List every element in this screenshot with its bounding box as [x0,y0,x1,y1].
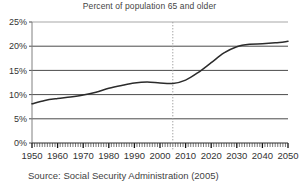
x-tick-label-2020: 2020 [201,150,222,161]
y-tick-label-20: 20% [9,41,27,51]
x-tick-label-1980: 1980 [98,150,119,161]
x-minor-tick-marks [32,143,288,148]
y-tick-label-10: 10% [9,90,27,100]
x-tick-label-2000: 2000 [149,150,170,161]
source-caption: Source: Social Security Administration (… [28,170,219,181]
x-tick-label-1970: 1970 [73,150,94,161]
gridlines-group [32,22,288,119]
chart-plot-area: 0%5%10%15%20%25% 19501960197019801990200… [0,0,299,186]
x-tick-label-2030: 2030 [226,150,247,161]
x-tick-label-2010: 2010 [175,150,196,161]
x-tick-label-1950: 1950 [21,150,42,161]
y-tick-label-25: 25% [9,17,27,27]
y-tick-label-0: 0% [14,138,27,148]
x-tick-label-1960: 1960 [47,150,68,161]
y-tick-label-15: 15% [9,66,27,76]
y-tick-label-5: 5% [14,114,27,124]
x-tick-label-2040: 2040 [252,150,273,161]
y-axis-tick-labels: 0%5%10%15%20%25% [9,17,27,148]
x-axis-tick-labels: 1950196019701980199020002010202020302040… [21,150,298,161]
x-tick-label-1990: 1990 [124,150,145,161]
chart-figure: Percent of population 65 and older 0%5%1… [0,0,299,186]
x-tick-label-2050: 2050 [277,150,298,161]
